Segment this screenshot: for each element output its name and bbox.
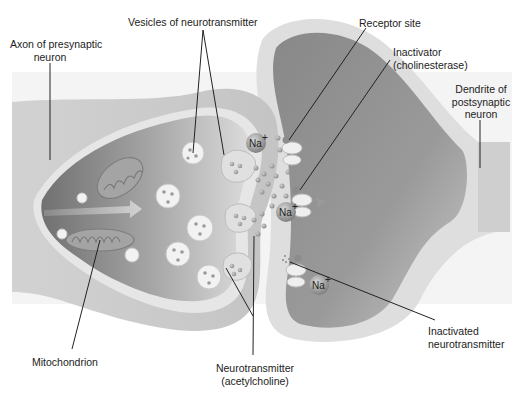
label-dendrite: Dendrite of postsynaptic neuron (446, 83, 516, 121)
label-inactivator-line2: (cholinesterase) (393, 59, 468, 72)
svg-text:Na: Na (279, 207, 292, 218)
svg-text:+: + (292, 201, 298, 212)
label-inactivated-neurotransmitter: Inactivated neurotransmitter (428, 325, 504, 350)
label-dendrite-line3: neuron (446, 108, 516, 121)
label-inactivated-line1: Inactivated (428, 325, 504, 338)
svg-text:Na: Na (312, 280, 325, 291)
label-neurotransmitter-line2: (acetylcholine) (200, 375, 310, 388)
label-dendrite-line1: Dendrite of (446, 83, 516, 96)
label-neurotransmitter: Neurotransmitter (acetylcholine) (200, 362, 310, 387)
label-inactivator-line1: Inactivator (393, 46, 468, 59)
label-axon: Axon of presynaptic neuron (10, 38, 90, 63)
label-mitochondrion: Mitochondrion (32, 356, 98, 369)
label-vesicles: Vesicles of neurotransmitter (128, 16, 258, 29)
label-axon-line2: neuron (10, 51, 90, 64)
svg-text:+: + (262, 132, 268, 143)
label-dendrite-line2: postsynaptic (446, 96, 516, 109)
label-axon-line1: Axon of presynaptic (10, 38, 90, 51)
svg-text:+: + (325, 274, 331, 285)
label-neurotransmitter-line1: Neurotransmitter (200, 362, 310, 375)
label-inactivator: Inactivator (cholinesterase) (393, 46, 468, 71)
label-receptor-site: Receptor site (359, 17, 421, 30)
label-inactivated-line2: neurotransmitter (428, 338, 504, 351)
svg-text:Na: Na (249, 138, 262, 149)
